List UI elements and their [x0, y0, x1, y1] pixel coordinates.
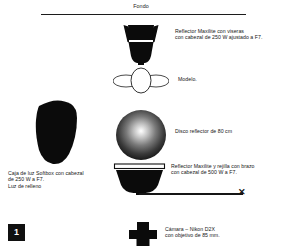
annotation-disco: Disco reflector de 80 cm	[175, 128, 280, 134]
annotation-camara: Cámara – Nikon D2X con objetivo de 85 mm…	[165, 226, 279, 239]
figure-number-text: 1	[14, 228, 19, 237]
maxilite-reflector-top-icon	[119, 23, 163, 65]
lighting-setup-diagram: Fondo	[0, 0, 282, 252]
backdrop-line	[41, 14, 246, 16]
softbox-icon	[33, 98, 99, 166]
figure-number-badge: 1	[8, 224, 25, 241]
boom-arm	[139, 193, 243, 195]
annotation-maxilite-top: Reflector Maxilite con viseras con cabez…	[175, 28, 281, 41]
backdrop-label: Fondo	[0, 3, 282, 9]
boom-end-marker: ✕	[238, 187, 247, 198]
annotation-softbox: Caja de luz Softbox con cabezal de 250 W…	[8, 170, 118, 189]
model-figure-icon	[113, 66, 169, 96]
camera-icon	[126, 222, 160, 246]
annotation-maxilite-bottom: Reflector Maxilite y rejilla con brazo c…	[171, 163, 282, 176]
annotation-modelo: Modelo.	[178, 76, 238, 82]
maxilite-reflector-bottom-icon	[112, 163, 172, 195]
reflector-disc-icon	[116, 110, 166, 160]
